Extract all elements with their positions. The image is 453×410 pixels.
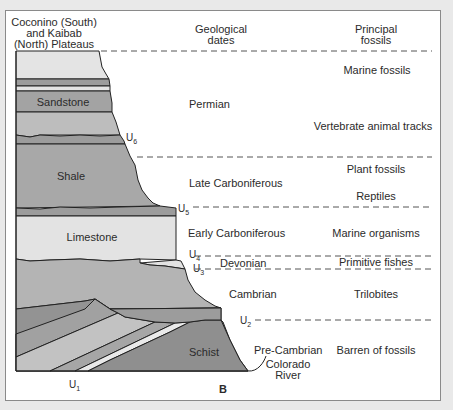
- layer-permian-lower: [16, 112, 120, 137]
- fossil-plant-fossils: Plant fossils: [347, 163, 406, 175]
- layer-dark-band: [16, 79, 110, 86]
- river-label: Colorado River: [266, 358, 311, 381]
- period-late-carboniferous: Late Carboniferous: [189, 177, 283, 189]
- rock-label-schist: Schist: [189, 346, 219, 358]
- figure-label: B: [219, 383, 227, 395]
- river-leader: [248, 356, 266, 371]
- period-permian: Permian: [189, 98, 230, 110]
- rock-label-limestone: Limestone: [67, 231, 118, 243]
- fossil-vertebrate-tracks: Vertebrate animal tracks: [314, 120, 433, 132]
- fossil-marine-fossils: Marine fossils: [343, 64, 411, 76]
- unconformity-u2: U2: [240, 315, 251, 328]
- column-header: Coconino (South) and Kaibab (North) Plat…: [11, 16, 397, 50]
- period-early-carboniferous: Early Carboniferous: [188, 227, 286, 239]
- unconformity-u5: U5: [178, 203, 189, 216]
- header-dates-line-2: dates: [208, 34, 235, 46]
- header-fossils-line-2: fossils: [361, 34, 392, 46]
- unconformity-u3: U3: [193, 263, 204, 276]
- header-column-line-3: (North) Plateaus: [14, 38, 95, 50]
- fossil-barren: Barren of fossils: [337, 344, 416, 356]
- period-pre-cambrian: Pre-Cambrian: [254, 344, 322, 356]
- fossil-marine-organisms: Marine organisms: [332, 227, 420, 239]
- rock-label-shale: Shale: [57, 170, 85, 182]
- fossil-reptiles: Reptiles: [356, 190, 396, 202]
- layer-thin-light: [16, 86, 110, 91]
- unconformity-u4: U4: [189, 249, 200, 262]
- layer-top-pale: [16, 51, 109, 79]
- fossil-primitive-fishes: Primitive fishes: [339, 256, 413, 268]
- period-devonian: Devonian: [220, 257, 266, 269]
- rock-label-sandstone: Sandstone: [37, 96, 90, 108]
- grand-canyon-cross-section: Coconino (South) and Kaibab (North) Plat…: [0, 0, 453, 410]
- period-cambrian: Cambrian: [229, 288, 277, 300]
- layer-cambrian: [16, 259, 221, 309]
- fossil-trilobites: Trilobites: [354, 288, 399, 300]
- layer-u6-band: [16, 135, 125, 144]
- layer-shale: [16, 144, 160, 208]
- unconformity-u6: U6: [126, 132, 137, 145]
- unconformity-u1: U1: [69, 379, 80, 392]
- river-label-line-2: River: [275, 369, 301, 381]
- fossil-labels: Marine fossils Vertebrate animal tracks …: [314, 64, 433, 356]
